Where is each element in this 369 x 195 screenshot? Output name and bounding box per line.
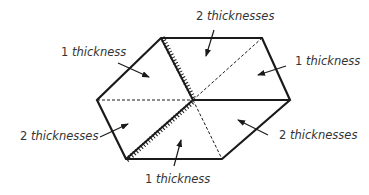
label-right: 1 thickness — [295, 56, 360, 68]
label-bottom: 1 thickness — [145, 174, 210, 186]
arrow-right — [258, 66, 286, 75]
hatched-edge-bottom — [126, 100, 194, 160]
arrow-bottom — [174, 140, 181, 166]
label-bottom-right: 2 thicknesses — [279, 130, 357, 142]
hexagon-fold-diagram — [0, 0, 369, 195]
label-top-left: 1 thickness — [61, 47, 126, 59]
arrow-top — [206, 30, 214, 56]
dashed-fold-center-topright — [193, 38, 262, 100]
label-left: 2 thicknesses — [20, 131, 98, 143]
hatched-edge-top — [161, 37, 194, 100]
label-top: 2 thicknesses — [196, 11, 274, 23]
dashed-fold-center-bottomright — [193, 100, 222, 159]
